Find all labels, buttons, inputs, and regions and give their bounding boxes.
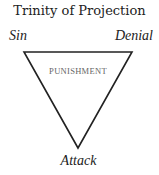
vertex-label-attack: Attack [0,153,157,169]
center-label-punishment: PUNISHMENT [40,66,116,76]
inverted-triangle [0,0,159,175]
